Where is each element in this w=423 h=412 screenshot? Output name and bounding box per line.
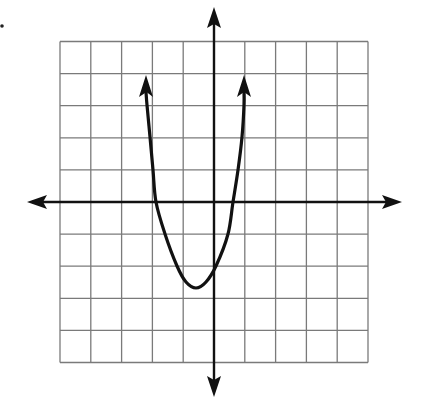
axes	[27, 7, 402, 397]
graph-svg: Upward-opening parabola on a 10x10 coord…	[0, 0, 423, 412]
parabola-curve	[146, 92, 244, 288]
stray-dot-mark	[0, 24, 4, 28]
coordinate-plane-chart: Upward-opening parabola on a 10x10 coord…	[0, 0, 423, 412]
